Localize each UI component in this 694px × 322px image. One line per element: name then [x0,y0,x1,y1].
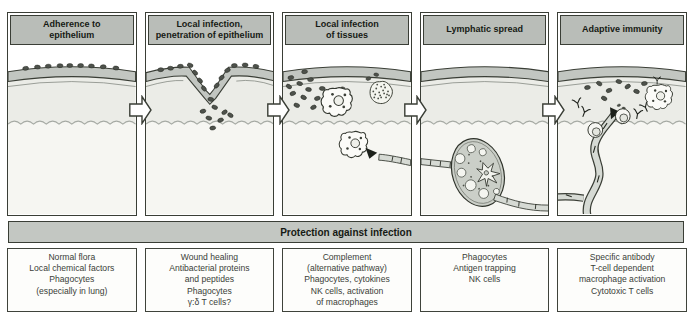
protection-box-adherence: Normal flora Local chemical factors Phag… [7,248,137,312]
panel-title-adaptive-immunity: Adaptive immunity [560,15,684,45]
panel-lymphatic-spread: Lymphatic spread [420,12,550,216]
granular-cell [370,81,392,103]
bacteria-penetrating-epithelium-wound-illustration [146,46,274,214]
antibodies-lymphocytes-macrophage-illustration [558,46,686,214]
panel-penetration: Local infection, penetration of epitheli… [145,12,275,216]
panel-tissue-infection: Local infection of tissues [282,12,412,216]
right-block-arrow-icon [267,95,290,125]
protection-box-lymphatic-spread: Phagocytes Antigen trapping NK cells [420,248,550,312]
panel-title-adherence: Adherence to epithelium [10,15,134,45]
panel-title-tissue-infection: Local infection of tissues [285,15,409,45]
right-block-arrow-icon [542,95,565,125]
protection-box-adaptive-immunity: Specific antibody T-cell dependent macro… [557,248,687,312]
panel-adaptive-immunity: Adaptive immunity [557,12,687,216]
protection-box-penetration: Wound healing Antibacterial proteins and… [145,248,275,312]
right-block-arrow-icon [129,95,152,125]
protection-boxes-row: Normal flora Local chemical factors Phag… [7,248,687,312]
infection-stages-diagram: Adherence to epithelium Local infection,… [0,0,694,322]
lymph-node-lymphatic-vessels-illustration [421,46,549,214]
panel-adherence: Adherence to epithelium [7,12,137,216]
protection-box-tissue-infection: Complement (alternative pathway) Phagocy… [282,248,412,312]
protection-banner: Protection against infection [8,221,684,243]
right-block-arrow-icon [404,95,427,125]
panel-title-lymphatic-spread: Lymphatic spread [423,15,547,45]
stage-panels-row: Adherence to epithelium Local infection,… [7,12,687,216]
tissue-infection-phagocytes-illustration [283,46,411,214]
bacteria-adhering-to-epithelium-illustration [8,46,136,214]
panel-title-penetration: Local infection, penetration of epitheli… [148,15,272,45]
